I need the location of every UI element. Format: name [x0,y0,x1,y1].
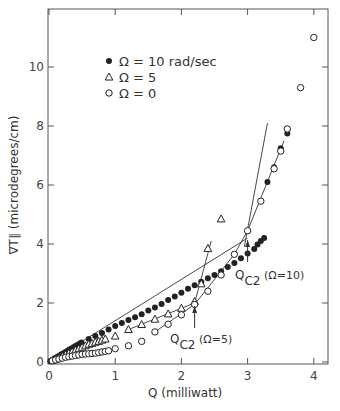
x-tick-label: 2 [178,369,186,383]
y-tick-label: 8 [36,119,44,133]
annotation-qc2-omega5: QC2 (Ω=5) [170,332,232,352]
filled-circle-marker [172,294,178,300]
open-circle-marker [244,228,250,234]
filled-circle-marker [185,286,191,292]
open-circle-marker [205,288,211,294]
x-axis-title: Q (milliwatt) [148,386,222,400]
open-circle-marker [271,166,277,172]
legend-label: Ω = 0 [119,86,156,101]
open-triangle-marker [217,215,225,222]
open-circle-marker [105,348,111,354]
annotation-qc2-omega10: QC2 (Ω=10) [235,268,304,288]
open-circle-marker [258,198,264,204]
open-circle-marker [284,126,290,132]
open-triangle-marker [125,326,133,333]
plot-area: 012340246810Ω = 10 rad/secΩ = 5Ω = 0QC2 … [0,0,340,411]
open-circle-marker [278,148,284,154]
filled-circle-marker [152,304,158,310]
filled-circle-marker [119,320,125,326]
x-tick-label: 0 [45,369,53,383]
filled-circle-marker [225,264,231,270]
filled-circle-marker [112,323,118,329]
filled-circle-marker [231,260,237,266]
open-triangle-marker [178,304,186,311]
open-circle-marker [125,343,131,349]
open-circle-marker [152,329,158,335]
open-triangle-marker [111,332,119,339]
filled-circle-marker [165,297,171,303]
x-tick-label: 1 [111,369,119,383]
open-triangle-marker [164,310,172,317]
filled-circle-marker [192,282,198,288]
open-circle-marker [112,346,118,352]
y-tick-label: 10 [29,60,44,74]
open-triangle-marker [151,315,159,322]
legend-label: Ω = 5 [119,70,156,85]
open-triangle-marker [138,321,146,328]
filled-circle-marker [125,317,131,323]
filled-circle-marker [145,307,151,313]
legend-label: Ω = 10 rad/sec [119,54,217,69]
filled-circle-marker [238,255,244,261]
open-circle-marker [138,338,144,344]
filled-circle-marker [139,311,145,317]
filled-circle-marker [159,301,165,307]
filled-circle-marker [132,314,138,320]
y-tick-label: 0 [36,355,44,369]
filled-circle-marker [261,235,267,241]
y-tick-label: 6 [36,178,44,192]
filled-circle-marker [106,58,112,64]
y-tick-label: 2 [36,296,44,310]
filled-circle-marker [178,290,184,296]
open-circle-marker [178,312,184,318]
filled-circle-marker [264,179,270,185]
open-triangle-marker [105,73,113,80]
open-circle-marker [165,321,171,327]
chart: 012340246810Ω = 10 rad/secΩ = 5Ω = 0QC2 … [0,0,340,411]
x-tick-label: 4 [310,369,318,383]
y-axis-title: ∇T∥ (microdegrees/cm) [7,105,21,265]
open-circle-marker [231,251,237,257]
open-circle-marker [218,272,224,278]
y-tick-label: 4 [36,237,44,251]
filled-circle-marker [205,275,211,281]
open-circle-marker [106,90,112,96]
filled-circle-marker [106,327,112,333]
open-triangle-marker [204,244,212,251]
open-circle-marker [297,84,303,90]
filled-circle-marker [212,272,218,278]
x-tick-label: 3 [244,369,252,383]
open-circle-marker [311,34,317,40]
